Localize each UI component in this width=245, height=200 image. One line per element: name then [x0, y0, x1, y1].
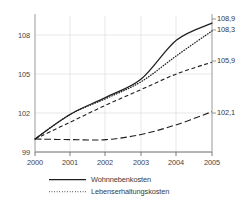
line-chart: 108 105 102 99 2000 2001 2002 2003 2004 …: [0, 0, 245, 200]
end-value-label-long-dashed: 102,1: [217, 108, 235, 117]
end-value-label-wohnnebenkosten: 108,9: [217, 14, 235, 23]
legend-item-lebenserhaltungskosten: Lebenserhaltungskosten: [49, 187, 169, 196]
x-axis-tick-2005: 2005: [197, 158, 227, 167]
x-axis-tick-2003: 2003: [126, 158, 156, 167]
x-axis-tick-2001: 2001: [55, 158, 85, 167]
legend-label-lebenserhaltungskosten: Lebenserhaltungskosten: [91, 187, 169, 196]
legend-key-solid-icon: [49, 175, 86, 184]
end-label-leaders: [212, 19, 216, 113]
chart-series-group: [35, 23, 212, 140]
y-axis-tick-105: 105: [6, 70, 30, 79]
legend-item-wohnnebenkosten: Wohnnebenkosten: [49, 175, 169, 184]
x-axis-tick-2000: 2000: [20, 158, 50, 167]
legend-key-dotted-icon: [49, 187, 86, 196]
y-axis-tick-108: 108: [6, 31, 30, 40]
y-axis-tick-99: 99: [6, 148, 30, 157]
legend-label-wohnnebenkosten: Wohnnebenkosten: [91, 175, 151, 184]
end-value-label-dashed: 105,9: [217, 56, 235, 65]
gridlines: [35, 16, 212, 152]
end-value-label-lebenserhaltungskosten: 108,3: [217, 25, 235, 34]
y-axis-tick-102: 102: [6, 109, 30, 118]
chart-legend: Wohnnebenkosten Lebenserhaltungskosten: [49, 175, 169, 196]
chart-plot-area: [0, 0, 245, 200]
x-axis-tick-2002: 2002: [90, 158, 120, 167]
x-axis-tick-2004: 2004: [161, 158, 191, 167]
series-line-lebenserhaltungskosten: [35, 31, 212, 139]
